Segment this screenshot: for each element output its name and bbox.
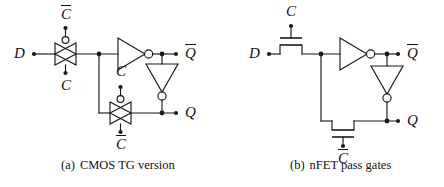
label-output-qbar-a: Q xyxy=(185,45,196,61)
caption-panel-a: (a)CMOS TG version xyxy=(61,158,175,173)
caption-panel-b: (b)nFET pass gates xyxy=(290,158,391,173)
terminal-dot-d-b xyxy=(267,52,271,56)
label-input-d-a: D xyxy=(14,46,25,61)
tg1-gate-dot-bottom xyxy=(63,71,67,75)
panel-nfet-pass-gates: D C C Q Q xyxy=(222,0,444,157)
label-output-q-b: Q xyxy=(407,113,418,128)
inverter-forward-body-b xyxy=(340,38,367,70)
tg2-triangle-right xyxy=(110,102,131,124)
figure-canvas: D C C C C Q Q xyxy=(0,0,444,187)
junction-q-b xyxy=(385,119,390,124)
terminal-dot-qbar xyxy=(174,52,178,56)
tg2-gate-dot-top xyxy=(118,85,122,89)
caption-text-a: CMOS TG version xyxy=(80,158,175,172)
panel-cmos-tg-version: D C C C C Q Q xyxy=(0,0,222,157)
label-tg2-cbar: C xyxy=(116,136,126,152)
label-output-qbar-b: Q xyxy=(407,45,418,61)
inverter-feedback-bubble-b xyxy=(383,94,391,102)
tg1-triangle-left xyxy=(55,43,76,65)
caption-text-b: nFET pass gates xyxy=(310,158,392,172)
label-tg2-c: C xyxy=(116,64,126,79)
schematic-b xyxy=(222,0,444,157)
terminal-dot-q xyxy=(174,111,178,115)
tg2-pfet-bubble xyxy=(117,96,124,103)
label-output-q-a: Q xyxy=(185,105,196,120)
inverter-feedback-bubble xyxy=(158,92,166,100)
inverter-feedback-body xyxy=(146,64,178,92)
caption-tag-a: (a) xyxy=(61,158,75,172)
tg2-gate-dot-bottom xyxy=(118,130,122,134)
tg1-triangle-right xyxy=(55,43,76,65)
schematic-a xyxy=(0,0,222,157)
tg1-pfet-bubble xyxy=(62,37,69,44)
junction-q xyxy=(160,111,165,116)
label-tg1-c: C xyxy=(61,78,71,93)
inverter-forward-bubble-b xyxy=(367,50,375,58)
terminal-dot-q-b xyxy=(396,119,400,123)
label-input-d-b: D xyxy=(249,46,260,61)
terminal-dot-qbar-b xyxy=(396,52,400,56)
terminal-dot-d xyxy=(32,52,36,56)
tg2-triangle-left xyxy=(110,102,131,124)
label-nfet1-c: C xyxy=(286,4,296,19)
nfet2-gate-dot xyxy=(341,144,345,148)
label-tg1-cbar: C xyxy=(61,6,71,22)
caption-tag-b: (b) xyxy=(290,158,305,172)
inverter-forward-bubble xyxy=(145,50,153,58)
tg1-gate-dot-top xyxy=(63,26,67,30)
nfet1-gate-dot xyxy=(289,24,293,28)
inverter-feedback-body-b xyxy=(371,66,403,94)
